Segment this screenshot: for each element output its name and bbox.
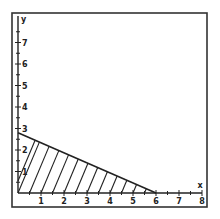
boundary-line — [18, 133, 156, 193]
x-tick-label: 6 — [153, 197, 159, 206]
x-axis-label: x — [197, 181, 203, 190]
y-axis-label: y — [21, 15, 27, 24]
shaded-region — [18, 140, 146, 193]
x-tick-label: 1 — [38, 197, 44, 206]
x-tick-labels: 12345678 — [38, 197, 205, 206]
y-tick-label: 4 — [22, 103, 28, 112]
y-tick-label: 3 — [22, 125, 28, 134]
x-tick-label: 4 — [107, 197, 113, 206]
y-tick-label: 7 — [22, 39, 28, 48]
y-tick-label: 1 — [22, 168, 28, 177]
graph: x y 12345678 1234567 — [0, 0, 220, 219]
y-tick-labels: 1234567 — [22, 39, 28, 177]
plot-frame — [12, 13, 207, 207]
y-tick-label: 6 — [22, 60, 28, 69]
y-tick-label: 2 — [22, 146, 28, 155]
x-tick-label: 8 — [199, 197, 205, 206]
y-tick-label: 5 — [22, 82, 28, 91]
x-tick-label: 3 — [84, 197, 90, 206]
x-tick-label: 5 — [130, 197, 136, 206]
axes — [15, 16, 202, 196]
x-tick-label: 2 — [61, 197, 67, 206]
x-tick-label: 7 — [176, 197, 182, 206]
